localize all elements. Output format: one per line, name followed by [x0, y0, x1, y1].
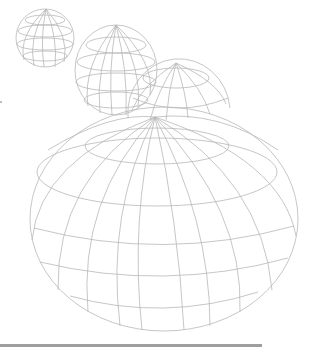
globe-large-icon	[128, 59, 230, 120]
globe-medium-icon	[75, 25, 157, 115]
decorative-dot	[0, 101, 2, 103]
globe-small-icon	[16, 9, 74, 67]
wireframe-globes-illustration	[0, 0, 313, 348]
footer-rule	[0, 344, 262, 347]
globe-xlarge-icon	[30, 107, 298, 331]
